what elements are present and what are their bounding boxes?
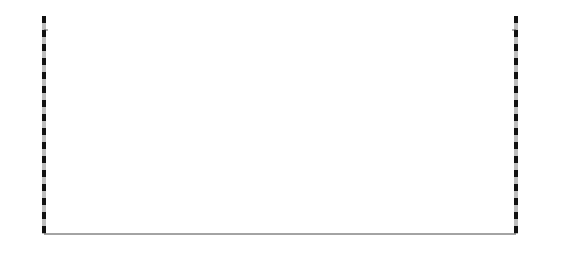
cross-section-figure [0,0,563,268]
cross-section-plot [0,0,563,268]
